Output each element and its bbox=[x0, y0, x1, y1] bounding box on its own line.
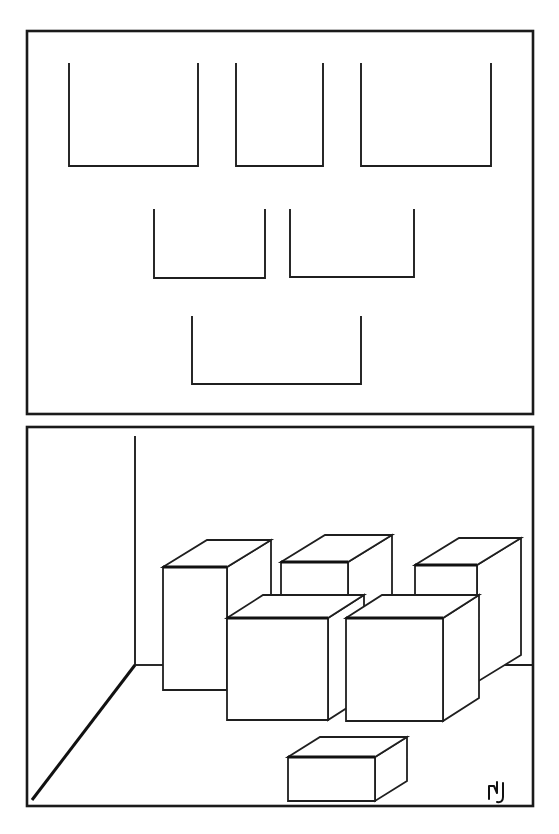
box-foreground-front-face bbox=[288, 757, 375, 801]
artist-signature bbox=[489, 782, 503, 802]
figure-root: Two-panel line drawing Rectangular frame… bbox=[0, 0, 559, 834]
u-shape-2 bbox=[236, 63, 323, 166]
room-floor-left-diagonal bbox=[32, 665, 135, 800]
signature-glyph bbox=[489, 782, 503, 802]
bottom-panel bbox=[27, 427, 533, 806]
u-shape-3 bbox=[361, 63, 491, 166]
box-back-left-front-face bbox=[163, 567, 227, 690]
top-panel-frame bbox=[27, 31, 533, 414]
box-front-right-front-face bbox=[346, 618, 443, 721]
u-shape-6 bbox=[192, 316, 361, 384]
u-shape-5 bbox=[290, 209, 414, 277]
top-panel bbox=[27, 31, 533, 414]
box-front-left bbox=[227, 595, 364, 720]
u-shape-group bbox=[69, 63, 491, 384]
u-shape-4 bbox=[154, 209, 265, 278]
box-front-right bbox=[346, 595, 479, 721]
box-front-left-front-face bbox=[227, 618, 328, 720]
line-drawing-canvas bbox=[0, 0, 559, 834]
box-foreground bbox=[288, 737, 407, 801]
u-shape-1 bbox=[69, 63, 198, 166]
